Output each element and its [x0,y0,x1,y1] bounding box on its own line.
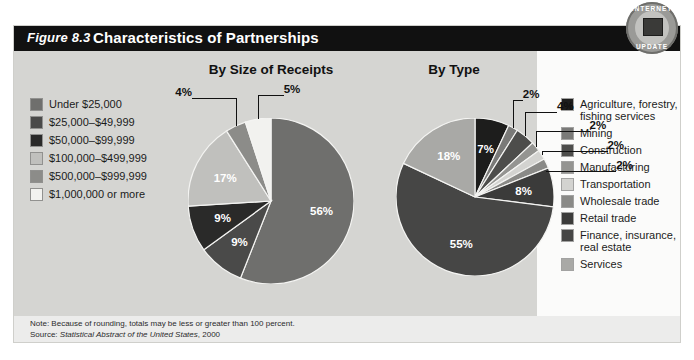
legend-right-swatch [562,128,573,139]
legend-right-label: Retail trade [580,212,636,224]
pie-title-by-size-of-receipts: By Size of Receipts [166,62,376,77]
monitor-icon [643,18,663,36]
leader-line [542,151,608,152]
footnote-source: Source: Statistical Abstract of the Unit… [30,329,295,340]
pie-slice-label: 4% [557,100,574,112]
badge-top-text: INTERNET [626,5,678,12]
pie-slice-label: 55% [450,238,473,250]
pie-slice-label: 2% [590,119,607,131]
legend-left-swatch [31,153,42,164]
pie-svg [396,118,554,276]
leader-line [536,131,590,132]
legend-left-item: $1,000,000 or more [31,188,147,200]
legend-right-item: Agriculture, forestry, fishing services [562,98,678,122]
legend-left-swatch [31,171,42,182]
leader-line [236,98,237,126]
leader-line [525,112,557,113]
legend-left-label: $50,000–$99,999 [49,134,135,146]
leader-line [513,100,514,128]
legend-right-item: Mining [562,127,678,139]
legend-left-label: Under $25,000 [49,98,122,110]
legend-right-item: Services [562,258,678,270]
pie-slice-label: 18% [437,150,460,162]
legend-left-swatch [31,135,42,146]
leader-line [513,100,523,101]
pie-slice-label: 9% [214,212,231,224]
legend-right-item: Wholesale trade [562,195,678,207]
legend-right-swatch [562,196,573,207]
pie-slice-label: 4% [175,86,192,98]
legend-left-label: $1,000,000 or more [49,188,145,200]
pie-slice-label: 7% [477,143,494,155]
figure-title: Characteristics of Partnerships [93,29,319,46]
legend-left-item: Under $25,000 [31,98,147,110]
pie-slice-label: 56% [310,205,333,217]
legend-right-item: Transportation [562,178,678,190]
legend-left-swatch [31,189,42,200]
pie-chart-by-type: 7%2%4%2%2%2%8%55%18% [396,118,554,276]
pie-slice-label: 2% [616,159,633,171]
legend-right-label: Finance, insurance, real estate [580,229,676,253]
legend-by-type: Agriculture, forestry, fishing servicesM… [562,98,678,275]
footnote-source-title: Statistical Abstract of the United State… [60,330,198,339]
legend-right-swatch [562,230,573,241]
legend-left-label: $100,000–$499,999 [49,152,147,164]
legend-right-item: Finance, insurance, real estate [562,229,678,253]
footnote: Note: Because of rounding, totals may be… [30,318,295,340]
footnote-note: Note: Because of rounding, totals may be… [30,318,295,329]
footnote-note-text: Because of rounding, totals may be less … [51,319,294,328]
legend-left-swatch [31,117,42,128]
legend-right-item: Retail trade [562,212,678,224]
figure-title-bar: Figure 8.3 Characteristics of Partnershi… [14,26,680,51]
leader-line [258,95,259,119]
legend-right-label: Wholesale trade [580,195,660,207]
legend-left-item: $25,000–$49,999 [31,116,147,128]
pie-slice-label: 2% [523,88,540,100]
footnote-source-year: , 2000 [198,330,220,339]
pie-slice-label: 8% [515,185,532,197]
pie-title-by-type: By Type [384,62,524,77]
leader-line [525,112,526,136]
badge-bottom-text: UPDATE [626,43,678,50]
legend-right-swatch [562,179,573,190]
leader-line [192,98,236,99]
pie-slice-label: 2% [607,139,624,151]
pie-slice-label: 9% [231,236,248,248]
pie-slice-label: 5% [284,83,301,95]
legend-by-size-of-receipts: Under $25,000$25,000–$49,999$50,000–$99,… [31,98,147,206]
leader-line [536,131,537,147]
legend-left-item: $50,000–$99,999 [31,134,147,146]
footnote-source-prefix: Source: [30,330,60,339]
legend-right-swatch [562,259,573,270]
internet-update-badge[interactable]: INTERNET UPDATE [626,2,678,54]
legend-right-label: Services [580,258,622,270]
figure-frame: Figure 8.3 Characteristics of Partnershi… [14,26,680,342]
leader-line [546,171,616,172]
figure-number: Figure 8.3 [27,30,90,45]
legend-left-item: $100,000–$499,999 [31,152,147,164]
legend-right-label: Transportation [580,178,651,190]
legend-right-swatch [562,213,573,224]
figure-page: Figure 8.3 Characteristics of Partnershi… [0,0,694,360]
pie-chart-by-size-of-receipts: 56%9%9%17%4%5% [188,118,354,284]
footnote-note-prefix: Note: [30,319,51,328]
legend-left-label: $25,000–$49,999 [49,116,135,128]
legend-left-swatch [31,99,42,110]
leader-line [258,95,284,96]
pie-svg [188,118,354,284]
pie-slice-label: 17% [214,172,237,184]
legend-left-label: $500,000–$999,999 [49,170,147,182]
legend-left-item: $500,000–$999,999 [31,170,147,182]
